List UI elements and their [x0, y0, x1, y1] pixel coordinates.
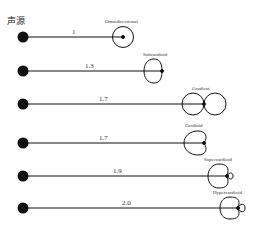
- row-cardioid: [18, 131, 207, 155]
- row-hypercardioid: [18, 197, 246, 219]
- pattern-label: Omnidirectional: [105, 19, 138, 24]
- distance-ratio-label: 1.9: [113, 167, 122, 175]
- pattern-label: Supercardioid: [204, 157, 233, 162]
- mic-point: [122, 36, 125, 39]
- pattern-label: Hypercardioid: [213, 190, 242, 195]
- mic-point: [203, 103, 206, 106]
- pattern-label: Subcardioid: [143, 52, 168, 57]
- diagram-canvas: 1 1.3 1.7 1.7 1.9 2.0 Omnidirectional Su…: [0, 0, 264, 233]
- mic-point: [161, 70, 164, 73]
- pattern-label: Gradient: [192, 86, 210, 91]
- mic-point: [237, 207, 240, 210]
- distance-ratio-label: 1.7: [99, 95, 108, 103]
- row-omnidirectional: [18, 27, 134, 48]
- microphone-pattern-diagram: 声源: [0, 0, 264, 233]
- mic-point: [226, 175, 229, 178]
- distance-ratio-label: 1: [72, 28, 76, 36]
- distance-ratio-label: 2.0: [122, 199, 131, 207]
- distance-ratio-label: 1.7: [99, 134, 108, 142]
- distance-ratio-label: 1.3: [85, 62, 94, 70]
- row-supercardioid: [18, 164, 234, 188]
- row-gradient: [18, 93, 227, 115]
- mic-point: [203, 142, 206, 145]
- pattern-label: Cardioid: [185, 123, 203, 128]
- gradient-rear-lobe: [204, 93, 226, 115]
